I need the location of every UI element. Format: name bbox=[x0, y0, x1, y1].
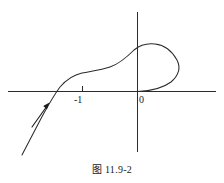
parametric-curve bbox=[22, 44, 179, 155]
origin-label: 0 bbox=[139, 95, 144, 105]
x-axis-label-neg-one: -1 bbox=[74, 95, 82, 105]
curve-plot-svg bbox=[0, 0, 224, 160]
plot-area bbox=[0, 0, 224, 160]
arrow-stem bbox=[32, 106, 47, 127]
figure-caption: 图 11.9-2 bbox=[0, 161, 224, 176]
direction-arrow bbox=[32, 103, 50, 128]
figure-container: -1 0 图 11.9-2 bbox=[0, 0, 224, 183]
